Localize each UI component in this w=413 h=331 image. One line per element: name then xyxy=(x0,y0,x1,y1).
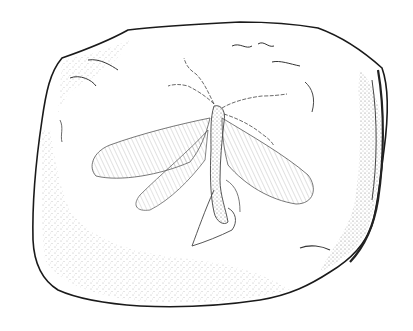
illustration xyxy=(0,0,413,331)
fossil-drawing xyxy=(0,0,413,331)
